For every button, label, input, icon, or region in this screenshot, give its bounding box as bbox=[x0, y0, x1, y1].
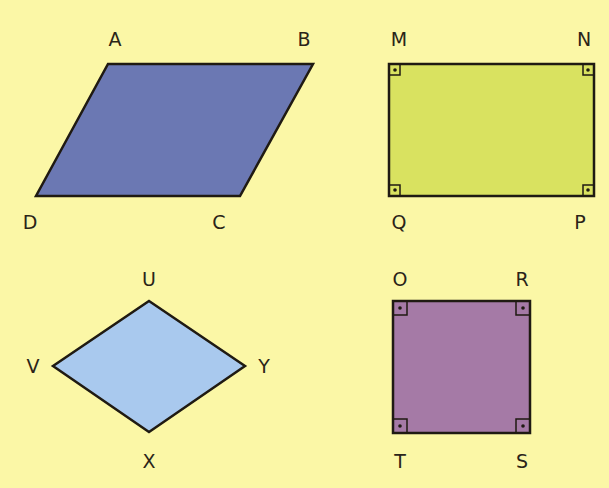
vertex-label-n: N bbox=[577, 28, 591, 50]
vertex-label-o: O bbox=[393, 268, 408, 290]
vertex-label-c: C bbox=[212, 211, 225, 233]
vertex-label-b: B bbox=[297, 28, 310, 50]
vertex-label-p: P bbox=[574, 211, 585, 233]
square-orst: O R S T bbox=[393, 268, 530, 472]
parallelogram-abcd: A B C D bbox=[23, 28, 313, 233]
vertex-label-a: A bbox=[109, 28, 122, 50]
rectangle-shape bbox=[389, 64, 594, 196]
rhombus-uyxv: U Y X V bbox=[27, 268, 271, 472]
vertex-label-t: T bbox=[393, 450, 406, 472]
vertex-label-u: U bbox=[142, 268, 156, 290]
quadrilaterals-diagram: A B C D M N P Q U Y X V bbox=[0, 0, 609, 488]
vertex-label-d: D bbox=[23, 211, 38, 233]
square-shape bbox=[393, 301, 530, 433]
vertex-label-y: Y bbox=[257, 355, 270, 377]
parallelogram-shape bbox=[36, 64, 313, 196]
rectangle-mnpq: M N P Q bbox=[389, 28, 594, 233]
vertex-label-m: M bbox=[391, 28, 407, 50]
rhombus-shape bbox=[53, 301, 245, 432]
vertex-label-q: Q bbox=[392, 211, 407, 233]
vertex-label-s: S bbox=[516, 450, 528, 472]
vertex-label-r: R bbox=[515, 268, 528, 290]
vertex-label-v: V bbox=[27, 355, 40, 377]
vertex-label-x: X bbox=[142, 450, 155, 472]
